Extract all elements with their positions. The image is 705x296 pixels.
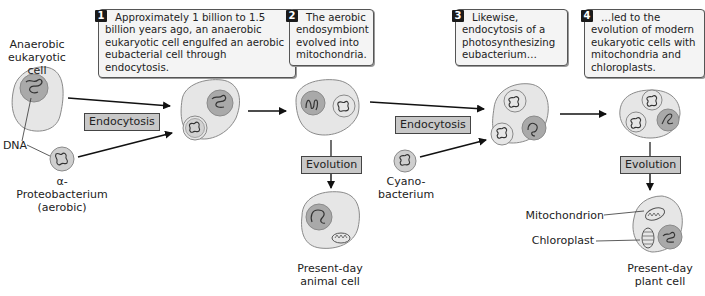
step-3-callout: 3 Likewise, endocytosis of a photosynthe… [455, 9, 568, 66]
engulfing-cell-icon [181, 80, 239, 140]
chloroplast-label: Chloroplast [518, 234, 594, 247]
arrow-bacterium-to-merge [78, 133, 172, 157]
arrow-to-step3 [370, 102, 484, 109]
dna-leader-2 [27, 145, 52, 157]
evolution-box-2: Evolution [620, 156, 681, 174]
cyanobacterium-label: Cyano- bacterium [378, 175, 434, 201]
arrow-cell-to-merge [68, 98, 170, 106]
arrow-cyano-to-step3 [420, 140, 486, 157]
step-3-number: 3 [452, 10, 464, 22]
endocytosis-box-1: Endocytosis [84, 113, 160, 131]
plant-cell-label: Present-day plant cell [620, 262, 700, 288]
proteobacterium-label: α-Proteobacterium (aerobic) [12, 175, 112, 214]
mitochondrion-label: Mitochondrion [518, 209, 604, 222]
step-4-number: 4 [581, 10, 593, 22]
step-4-text: …led to the evolution of modern eukaryot… [591, 12, 699, 74]
animal-cell-label: Present-day animal cell [290, 262, 370, 288]
cyanobacterium-icon [394, 150, 416, 172]
step-1-number: 1 [95, 10, 107, 22]
proteobacterium-icon [50, 147, 74, 171]
plant-precursor-cell-icon [620, 90, 680, 138]
endocytosis-box-2: Endocytosis [395, 116, 471, 134]
animal-cell-icon [302, 192, 360, 249]
evolution-box-1: Evolution [301, 156, 362, 174]
mitochondria-cell-icon [296, 80, 359, 135]
chloroplast-leader [596, 240, 640, 241]
step-1-text: Approximately 1 billion to 1.5 billion y… [105, 12, 290, 74]
step-2-text: The aerobic endosymbiont evolved into mi… [296, 12, 368, 62]
step-4-callout: 4 …led to the evolution of modern eukary… [584, 9, 705, 78]
anaerobic-cell-label: Anaerobic eukaryotic cell [2, 38, 72, 77]
step-1-callout: 1 Approximately 1 billion to 1.5 billion… [98, 9, 296, 78]
step-3-text: Likewise, endocytosis of a photosynthesi… [462, 12, 562, 62]
step-2-number: 2 [286, 10, 298, 22]
engulfing-cyano-cell-icon [491, 84, 548, 145]
plant-cell-icon [633, 196, 682, 252]
dna-label: DNA [2, 139, 28, 152]
step-2-callout: 2 The aerobic endosymbiont evolved into … [289, 9, 374, 66]
